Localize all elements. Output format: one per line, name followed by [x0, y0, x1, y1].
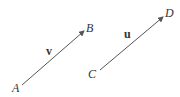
point-b-label: B — [86, 21, 94, 35]
vector-v-arrow — [22, 31, 84, 85]
point-d-label: D — [164, 6, 174, 20]
point-a-label: A — [11, 81, 20, 95]
vector-diagram: A B C D v u — [0, 0, 180, 97]
vector-u-arrow — [100, 17, 163, 70]
point-c-label: C — [88, 67, 97, 81]
vector-u-label: u — [124, 27, 131, 41]
vector-v-label: v — [46, 44, 52, 58]
